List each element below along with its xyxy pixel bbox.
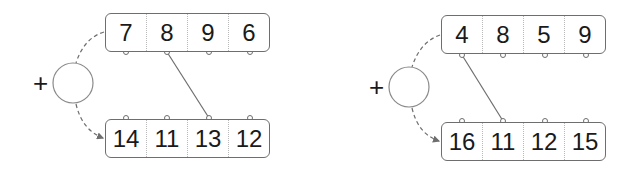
top-cell: 8	[146, 14, 187, 51]
top-cell: 5	[523, 16, 564, 53]
answer-circle	[53, 63, 93, 103]
bottom-cell: 12	[523, 123, 564, 160]
top-number-row: 4 8 5 9	[441, 15, 606, 54]
top-cell: 4	[442, 16, 482, 53]
bottom-number-row: 16 11 12 15	[441, 122, 606, 161]
top-number-row: 7 8 9 6	[105, 13, 270, 52]
plus-operator: +	[369, 74, 384, 100]
problem-panel-1: + 7 8 9 6 14 11 13 12	[0, 0, 320, 174]
bottom-cell: 14	[106, 120, 146, 157]
bottom-cell: 12	[228, 120, 269, 157]
answer-circle	[389, 67, 429, 107]
top-cell: 7	[106, 14, 146, 51]
bottom-number-row: 14 11 13 12	[105, 119, 270, 158]
top-cell: 9	[564, 16, 605, 53]
bottom-cell: 16	[442, 123, 482, 160]
top-cell: 9	[187, 14, 228, 51]
bottom-cell: 13	[187, 120, 228, 157]
top-cell: 6	[228, 14, 269, 51]
top-cell: 8	[482, 16, 523, 53]
bottom-cell: 15	[564, 123, 605, 160]
problem-panel-2: + 4 8 5 9 16 11 12 15	[320, 0, 640, 174]
bottom-cell: 11	[146, 120, 187, 157]
plus-operator: +	[33, 70, 48, 96]
bottom-cell: 11	[482, 123, 523, 160]
